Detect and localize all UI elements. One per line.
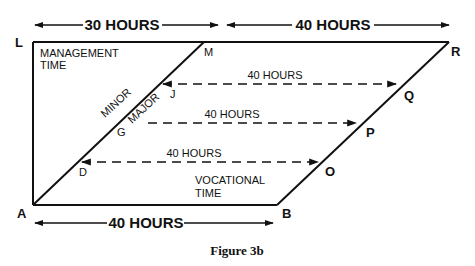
figure-caption: Figure 3b (210, 243, 264, 258)
transfer-G-P: 40 HOURS (148, 108, 356, 123)
point-R: R (451, 44, 461, 59)
figure-3b-diagram: 30 HOURS 40 HOURS 40 HOURS 40 HOURS 40 H… (0, 0, 475, 266)
point-A: A (17, 206, 27, 221)
point-G: G (117, 126, 126, 138)
point-J: J (170, 88, 176, 100)
point-M: M (204, 46, 213, 58)
point-B: B (282, 206, 291, 221)
point-Q: Q (404, 88, 414, 103)
dimension-label-40-hours-top: 40 HOURS (295, 16, 370, 33)
management-label-line1: MANAGEMENT (40, 47, 119, 59)
point-O: O (325, 164, 335, 179)
point-P: P (366, 125, 375, 140)
vocational-label-line2: TIME (195, 187, 221, 199)
transfer-label: 40 HOURS (204, 108, 259, 120)
dimension-label-30-hours: 30 HOURS (84, 16, 159, 33)
point-D: D (79, 166, 87, 178)
transfer-label: 40 HOURS (166, 147, 221, 159)
dimension-label-40-hours-bottom: 40 HOURS (108, 214, 183, 231)
top-left-dimension: 30 HOURS (35, 16, 218, 33)
top-right-dimension: 40 HOURS (227, 16, 449, 33)
vocational-label-line1: VOCATIONAL (195, 174, 265, 186)
point-L: L (15, 35, 23, 50)
transfer-D-O: 40 HOURS (82, 147, 318, 162)
management-label-line2: TIME (40, 59, 66, 71)
transfer-label: 40 HOURS (247, 69, 302, 81)
transfer-J-Q: 40 HOURS (163, 69, 396, 84)
bottom-dimension: 40 HOURS (35, 214, 273, 231)
